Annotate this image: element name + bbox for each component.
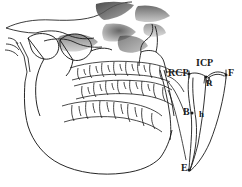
label-rcp: RCP	[168, 68, 189, 78]
point-b	[191, 112, 194, 115]
envelope-top-path	[189, 73, 205, 76]
label-r: R	[206, 79, 213, 88]
envelope-anterior-border	[190, 78, 226, 171]
figure-canvas: RCP ICP F R B h E	[0, 0, 242, 187]
maxillary-teeth	[70, 61, 170, 82]
external-auditory-meatus	[5, 38, 30, 82]
label-icp: ICP	[196, 58, 213, 68]
label-h: h	[199, 110, 204, 119]
envelope-h-line	[190, 79, 206, 170]
mandibular-posterior-teeth-row	[62, 101, 162, 132]
mandibular-ramus	[160, 70, 174, 140]
skull-and-envelope-illustration	[0, 0, 242, 187]
mandibular-condyle	[28, 34, 59, 60]
label-e: E	[181, 163, 188, 173]
label-f: F	[228, 68, 234, 78]
label-b: B	[183, 107, 190, 117]
envelope-inner-posterior	[190, 78, 197, 170]
envelope-posterior-border	[188, 76, 192, 169]
